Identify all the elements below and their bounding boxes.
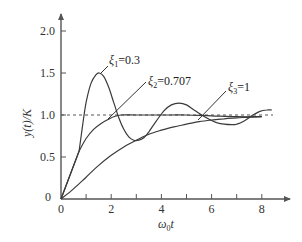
y-tick-label: 2.0 — [40, 24, 55, 38]
y-ticks: 00.51.01.52.0 — [40, 24, 66, 204]
curve-xi2 — [61, 115, 262, 199]
label-xi2: ξ2=0.707 — [148, 74, 191, 90]
x-tick-label: 2 — [108, 202, 114, 216]
x-tick-label: 0 — [58, 202, 64, 216]
x-tick-label: 4 — [158, 202, 164, 216]
y-tick-label: 1.5 — [40, 66, 55, 80]
step-response-chart: 00.51.01.52.0 02468 ξ1=0.3 ξ2=0.707 ξ3=1… — [0, 0, 302, 242]
y-tick-label: 1.0 — [40, 108, 55, 122]
x-tick-label: 6 — [209, 202, 215, 216]
y-axis-label: y(t)/K — [20, 108, 34, 138]
x-tick-label: 8 — [259, 202, 265, 216]
label-xi3: ξ3=1 — [228, 80, 250, 96]
curve-xi3 — [61, 117, 262, 199]
y-tick-label: 0 — [45, 190, 51, 204]
label-xi1: ξ1=0.3 — [109, 53, 140, 69]
x-ticks: 02468 — [58, 194, 265, 216]
leader-line-xi1 — [100, 66, 108, 74]
y-tick-label: 0.5 — [40, 150, 55, 164]
x-axis-label: ω0t — [158, 217, 174, 233]
